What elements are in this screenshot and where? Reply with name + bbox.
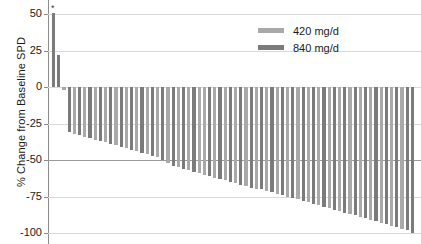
y-axis-tick-labels: 50250-25-50-75-100 [6,0,42,244]
bar [317,87,320,205]
bar [291,87,294,198]
legend-item-0[interactable]: 420 mg/d [258,22,408,39]
legend-label: 840 mg/d [293,42,339,54]
bar [328,87,331,208]
bar [172,87,175,166]
y-tick-label--25: -25 [8,118,42,129]
bar [348,87,351,214]
bar [88,87,91,138]
bar [140,87,143,153]
bar [94,87,97,140]
bar [395,87,398,227]
bar [177,87,180,167]
legend-swatch-icon [258,45,284,50]
bar [380,87,383,223]
bar [52,13,55,87]
bar [296,87,299,199]
bar [369,87,372,220]
waterfall-chart: % Change from Baseline SPD 50250-25-50-7… [0,0,421,244]
bar [270,87,273,192]
bar [83,87,86,137]
bar [135,87,138,151]
bar [130,87,133,150]
bar [187,87,190,170]
bar [114,87,117,145]
bar [182,87,185,169]
bar [146,87,149,154]
bar [151,87,154,156]
legend-label: 420 mg/d [293,25,339,37]
bar [125,87,128,148]
bar [73,87,76,134]
bar [239,87,242,185]
bar [359,87,362,217]
bar [57,55,60,87]
bar [374,87,377,221]
chart-legend: 420 mg/d840 mg/d [258,22,408,56]
asterisk-annotation: * [51,4,55,13]
y-tick-label-0: 0 [8,81,42,92]
bar [250,87,253,188]
bar [208,87,211,176]
bar [307,87,310,202]
bar [156,87,159,157]
bar [385,87,388,224]
legend-item-1[interactable]: 840 mg/d [258,39,408,56]
y-tick-label-50: 50 [8,8,42,19]
bar [338,87,341,211]
bar [224,87,227,180]
bar [390,87,393,226]
bar [229,87,232,182]
bar [120,87,123,147]
bar [99,87,102,141]
bar [203,87,206,175]
bar [218,87,221,179]
bar [244,87,247,186]
bar [411,87,414,233]
bar [400,87,403,229]
bar [302,87,305,201]
bar [161,87,164,160]
bar [62,87,65,90]
legend-swatch-icon [258,28,284,33]
bar [281,87,284,195]
bar [354,87,357,215]
bar [198,87,201,173]
bar [68,87,71,132]
bar [192,87,195,172]
bar [255,87,258,189]
bar [104,87,107,142]
bar [406,87,409,230]
y-tick-label--100: -100 [8,227,42,238]
bar [166,87,169,163]
bar [213,87,216,178]
bar [322,87,325,207]
bar [333,87,336,210]
bar [343,87,346,213]
y-tick-label-25: 25 [8,45,42,56]
bar [312,87,315,204]
bar [286,87,289,197]
bar [234,87,237,183]
bar [260,87,263,189]
bar [276,87,279,194]
bar [109,87,112,144]
bar [78,87,81,135]
y-tick-label--75: -75 [8,191,42,202]
y-tick-label--50: -50 [8,154,42,165]
bar [265,87,268,191]
bar [364,87,367,218]
